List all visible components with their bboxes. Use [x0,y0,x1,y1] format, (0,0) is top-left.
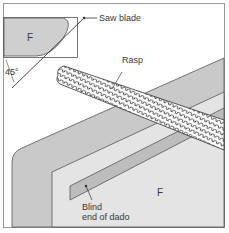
saw-blade-label: Saw blade [99,13,141,23]
rasp-label: Rasp [122,55,143,65]
diagram-canvas: Rasp F Saw blade 45° F Blind end of dado [0,0,229,233]
saw-blade-leader-dot [83,17,86,20]
angle-label: 45° [5,67,19,77]
dado-leader-dot [85,185,87,187]
front-face-label: F [157,187,163,198]
inset-face-label: F [27,32,33,43]
dado-label-line2: end of dado [82,212,130,222]
dado-label-line1: Blind [82,202,102,212]
